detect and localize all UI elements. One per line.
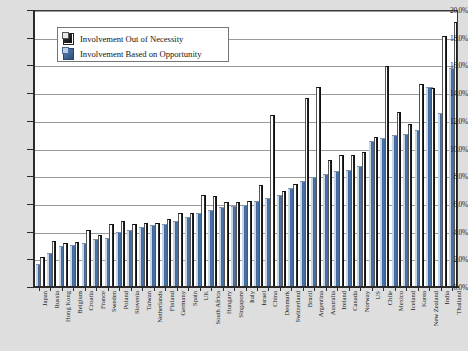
x-axis-tick — [246, 288, 247, 291]
x-axis-tick — [85, 288, 86, 291]
x-axis-tick — [154, 288, 155, 291]
y-axis-tick — [27, 259, 33, 260]
x-axis-tick-label: Croatia — [87, 291, 94, 310]
bar-necessity — [86, 230, 90, 286]
x-axis-tick — [349, 288, 350, 291]
y-axis-tick-label: 10.0% — [436, 144, 468, 153]
x-axis-tick-label: Netherlands — [156, 291, 163, 323]
x-axis-tick — [223, 288, 224, 291]
y-axis-tick-label: 14.0% — [436, 89, 468, 98]
x-axis-tick-label: Chile — [386, 291, 393, 305]
y-axis-tick — [27, 204, 33, 205]
bar-necessity — [109, 224, 113, 286]
x-axis-tick-label: Hungary — [225, 291, 232, 314]
x-axis-tick — [383, 288, 384, 291]
bar-necessity — [270, 115, 274, 286]
x-axis-tick — [39, 288, 40, 291]
y-axis-tick — [27, 93, 33, 94]
necessity-swatch-icon — [63, 33, 74, 45]
bar-necessity — [351, 155, 355, 286]
x-axis-tick-label: Italy — [248, 291, 255, 303]
bar-necessity — [224, 202, 228, 286]
x-axis-tick-label: New Zealand — [432, 291, 439, 326]
bar-necessity — [374, 137, 378, 286]
x-axis-tick-label: Korea — [420, 291, 427, 307]
x-axis-tick-label: Argentina — [317, 291, 324, 317]
x-axis-tick-label: Norway — [363, 291, 370, 312]
y-axis-tick-label: 16.0% — [436, 61, 468, 70]
x-axis-tick — [326, 288, 327, 291]
bar-necessity — [52, 241, 56, 286]
x-axis-tick — [200, 288, 201, 291]
bar-necessity — [408, 124, 412, 286]
bar-necessity — [305, 98, 309, 286]
bar-necessity — [328, 160, 332, 286]
x-axis-tick-label: Australia — [329, 291, 336, 315]
x-axis-tick — [280, 288, 281, 291]
x-axis-tick — [360, 288, 361, 291]
x-axis-tick-label: Japan — [41, 291, 48, 306]
bar-necessity — [167, 219, 171, 286]
x-axis-tick — [62, 288, 63, 291]
x-axis-tick-label: India — [443, 291, 450, 305]
x-axis-tick — [418, 288, 419, 291]
x-axis-tick — [165, 288, 166, 291]
legend-item-opportunity: Involvement Based on Opportunity — [63, 46, 223, 61]
y-axis-tick — [27, 176, 33, 177]
x-axis-tick — [291, 288, 292, 291]
chart-legend: Involvement Out of Necessity Involvement… — [57, 27, 229, 62]
x-axis-tick — [406, 288, 407, 291]
bar-necessity — [293, 184, 297, 286]
y-axis-tick-label: 12.0% — [436, 116, 468, 125]
opportunity-swatch-icon — [63, 48, 74, 60]
bar-necessity — [144, 223, 148, 286]
x-axis-tick — [395, 288, 396, 291]
x-axis-tick — [131, 288, 132, 291]
y-axis-tick-label: 2.0% — [436, 255, 468, 264]
bar-necessity — [362, 152, 366, 286]
x-axis-tick — [452, 288, 453, 291]
x-axis-tick — [303, 288, 304, 291]
x-axis-tick-label: Russia — [53, 291, 60, 309]
bar-necessity — [63, 243, 67, 286]
x-axis-tick — [96, 288, 97, 291]
y-axis-tick — [27, 10, 33, 11]
x-axis-tick-label: Canada — [351, 291, 358, 311]
bar-necessity — [339, 155, 343, 286]
x-axis-tick — [314, 288, 315, 291]
y-axis-line — [33, 10, 35, 288]
y-axis-tick-label: 4.0% — [436, 227, 468, 236]
x-axis-tick — [268, 288, 269, 291]
x-axis-tick-label: China — [271, 291, 278, 307]
y-axis-tick — [27, 65, 33, 66]
x-axis-tick — [50, 288, 51, 291]
x-axis-tick — [177, 288, 178, 291]
bar-chart: 0.0%2.0%4.0%6.0%8.0%10.0%12.0%14.0%16.0%… — [0, 0, 468, 351]
x-axis-tick-label: Spain — [191, 291, 198, 306]
bar-necessity — [247, 201, 251, 286]
x-axis-tick-label: Germany — [179, 291, 186, 316]
x-axis-tick-label: Taiwan — [145, 291, 152, 310]
x-axis-tick-label: Poland — [122, 291, 129, 309]
x-axis-tick — [211, 288, 212, 291]
legend-item-necessity: Involvement Out of Necessity — [63, 31, 223, 46]
x-axis-tick — [119, 288, 120, 291]
legend-label-necessity: Involvement Out of Necessity — [80, 34, 183, 44]
y-axis-tick-label: 8.0% — [436, 172, 468, 181]
bar-necessity — [121, 221, 125, 286]
x-axis-tick — [441, 288, 442, 291]
y-axis-tick-label: 18.0% — [436, 33, 468, 42]
x-axis-tick-label: Sweden — [110, 291, 117, 312]
bar-necessity — [442, 36, 446, 286]
x-axis-tick-label: Slovenia — [133, 291, 140, 314]
x-axis-tick-label: Thailand — [455, 291, 462, 314]
bar-necessity — [132, 224, 136, 286]
bar-necessity — [213, 196, 217, 286]
x-axis-tick-label: Israel — [260, 291, 267, 306]
y-axis-tick — [27, 38, 33, 39]
legend-label-opportunity: Involvement Based on Opportunity — [80, 49, 202, 59]
x-axis-tick-label: Hong Kong — [64, 291, 71, 322]
bar-necessity — [40, 257, 44, 286]
y-axis-tick-label: 20.0% — [436, 6, 468, 15]
x-axis-tick-label: UK — [202, 291, 209, 301]
